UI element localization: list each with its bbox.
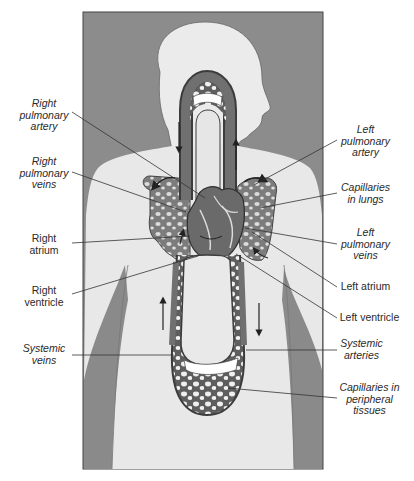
label-right-ventricle: Right ventricle: [4, 285, 84, 308]
label-systemic-veins: Systemic veins: [4, 343, 84, 366]
label-right-pulmonary-artery: Right pulmonary artery: [4, 98, 84, 133]
label-left-atrium: Left atrium: [318, 281, 413, 293]
label-left-ventricle: Left ventricle: [322, 312, 414, 324]
label-capillaries-in-peripheral-tissues: Capillaries in peripheral tissues: [322, 382, 414, 417]
label-left-pulmonary-artery: Left pulmonary artery: [318, 124, 413, 159]
circulation-diagram: Right pulmonary artery Right pulmonary v…: [0, 0, 414, 481]
label-systemic-arteries: Systemic arteries: [314, 338, 409, 361]
lower-capillary-loop: [172, 255, 244, 415]
label-left-pulmonary-veins: Left pulmonary veins: [318, 227, 413, 262]
label-capillaries-in-lungs: Capillaries in lungs: [318, 182, 413, 205]
label-right-pulmonary-veins: Right pulmonary veins: [4, 156, 84, 191]
label-right-atrium: Right atrium: [4, 233, 84, 256]
upper-capillary-loop: [186, 77, 230, 200]
